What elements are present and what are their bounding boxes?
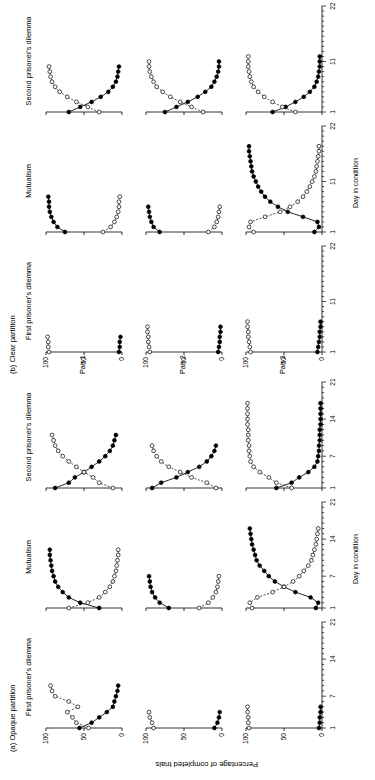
svg-text:14: 14	[329, 535, 336, 543]
rotated-figure-wrapper: Percentage of completed trials (a) Opaqu…	[0, 0, 375, 780]
svg-text:1: 1	[329, 486, 336, 490]
figure-page: Percentage of completed trials (a) Opaqu…	[0, 0, 375, 780]
svg-text:100: 100	[42, 733, 49, 744]
svg-text:7: 7	[329, 574, 336, 578]
figure-svg: 0501000501001714210501001714211714210501…	[0, 0, 375, 780]
svg-text:21: 21	[329, 378, 336, 386]
svg-text:100: 100	[142, 733, 149, 744]
svg-text:22: 22	[329, 122, 336, 130]
svg-text:50: 50	[280, 733, 287, 741]
svg-text:7: 7	[329, 694, 336, 698]
svg-text:100: 100	[242, 357, 249, 368]
svg-text:0: 0	[218, 357, 225, 361]
svg-text:11: 11	[329, 58, 336, 65]
svg-text:50: 50	[80, 733, 87, 741]
svg-text:1: 1	[329, 230, 336, 234]
figure: Percentage of completed trials (a) Opaqu…	[0, 0, 375, 780]
svg-text:1: 1	[329, 726, 336, 730]
svg-text:1: 1	[329, 606, 336, 610]
svg-text:0: 0	[218, 733, 225, 737]
svg-text:50: 50	[280, 357, 287, 365]
svg-text:14: 14	[329, 655, 336, 663]
svg-text:100: 100	[142, 357, 149, 368]
svg-text:0: 0	[318, 733, 325, 737]
svg-text:0: 0	[318, 357, 325, 361]
svg-text:11: 11	[329, 298, 336, 305]
svg-text:21: 21	[329, 618, 336, 626]
svg-text:1: 1	[329, 350, 336, 354]
svg-text:50: 50	[180, 733, 187, 741]
svg-text:100: 100	[242, 733, 249, 744]
svg-text:1: 1	[329, 110, 336, 114]
svg-text:100: 100	[42, 357, 49, 368]
svg-text:21: 21	[329, 498, 336, 506]
svg-text:50: 50	[180, 357, 187, 365]
svg-text:7: 7	[329, 454, 336, 458]
svg-text:22: 22	[329, 242, 336, 250]
svg-text:0: 0	[118, 733, 125, 737]
svg-text:22: 22	[329, 2, 336, 10]
svg-text:14: 14	[329, 415, 336, 423]
svg-text:11: 11	[329, 178, 336, 185]
svg-text:0: 0	[118, 357, 125, 361]
svg-text:50: 50	[80, 357, 87, 365]
